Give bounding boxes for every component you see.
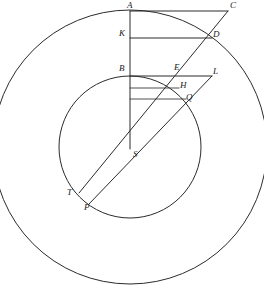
point-label-T: T [67,188,72,197]
segment-ray-P-S-L [89,76,212,204]
point-label-L: L [213,67,218,76]
point-label-Q: Q [186,93,193,102]
point-label-S: S [133,150,138,159]
point-label-A: A [127,1,133,10]
point-label-D: D [213,30,220,39]
point-label-K: K [119,29,125,38]
geometry-diagram: A C K D B E L H Q S T P [0,0,264,290]
point-label-B: B [119,64,125,73]
point-label-E: E [174,63,180,72]
figure-canvas [0,0,264,290]
outer-circle [0,10,264,284]
point-label-C: C [230,1,236,10]
point-label-H: H [180,81,187,90]
point-label-P: P [84,203,90,212]
